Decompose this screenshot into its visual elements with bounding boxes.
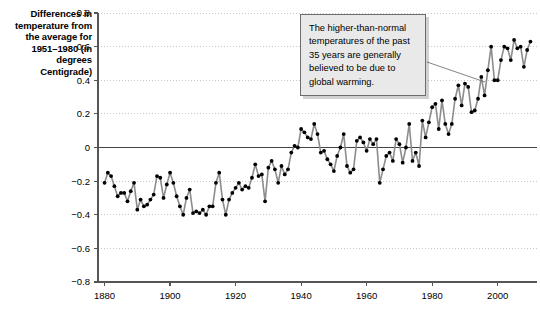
svg-text:−0.6: −0.6	[71, 243, 90, 254]
svg-text:−0.4: −0.4	[71, 209, 90, 220]
svg-text:−0.8: −0.8	[71, 276, 90, 287]
svg-text:0: 0	[85, 142, 90, 153]
svg-text:1980: 1980	[422, 290, 443, 301]
svg-text:1940: 1940	[291, 290, 312, 301]
svg-text:1880: 1880	[94, 290, 115, 301]
chart-figure: −0.8−0.6−0.4−0.200.20.40.60.8 1880190019…	[0, 0, 540, 314]
y-axis-caption: Differences in temperature from the aver…	[4, 8, 92, 78]
svg-text:−0.2: −0.2	[71, 176, 90, 187]
annotation-text: The higher-than-normal temperatures of t…	[309, 23, 410, 87]
x-axis-tick-labels: 1880190019201940196019802000	[94, 290, 508, 301]
svg-text:2000: 2000	[487, 290, 508, 301]
svg-text:0.2: 0.2	[77, 108, 90, 119]
annotation-leader-line	[427, 62, 485, 82]
axis-ticks	[94, 13, 498, 286]
annotation-callout: The higher-than-normal temperatures of t…	[300, 14, 426, 96]
svg-text:1900: 1900	[160, 290, 181, 301]
svg-text:1960: 1960	[356, 290, 377, 301]
svg-text:1920: 1920	[225, 290, 246, 301]
